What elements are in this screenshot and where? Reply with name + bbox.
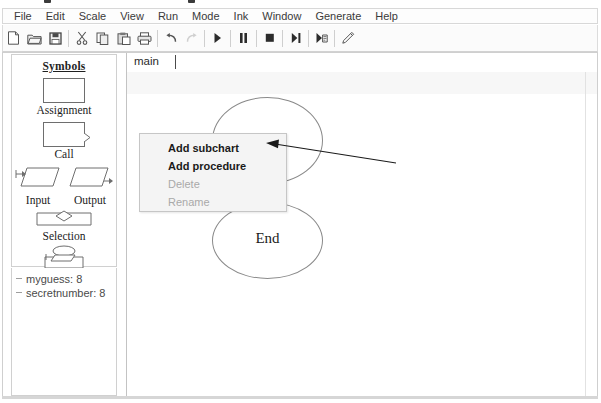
open-folder-icon[interactable] xyxy=(25,29,44,48)
toolbar-separator-6 xyxy=(282,30,283,47)
tab-strip: main xyxy=(127,53,597,73)
menu-item-window[interactable]: Window xyxy=(255,9,308,23)
context-menu-item-delete: Delete xyxy=(140,175,286,193)
menu-item-file[interactable]: File xyxy=(7,9,39,23)
menu-bar: File Edit Scale View Run Mode Ink Window… xyxy=(2,8,598,24)
symbol-label-call: Call xyxy=(12,148,116,160)
flowchart-canvas[interactable]: End xyxy=(127,72,597,397)
symbol-shape-call-wrap xyxy=(12,122,116,147)
step-into-icon[interactable] xyxy=(312,29,331,48)
new-file-icon[interactable] xyxy=(4,29,23,48)
toolbar-separator-3 xyxy=(204,30,205,47)
left-pane: Symbols Assignment Call xyxy=(3,53,127,397)
save-floppy-icon[interactable] xyxy=(46,29,65,48)
window-bottom-edge xyxy=(2,396,598,399)
toolbar-separator-1 xyxy=(68,30,69,47)
context-menu-item-add-subchart[interactable]: Add subchart xyxy=(140,139,286,157)
step-over-icon[interactable] xyxy=(286,29,305,48)
title-artifact-dot-left xyxy=(44,0,51,3)
symbol-label-assignment: Assignment xyxy=(12,104,116,116)
canvas-right-border xyxy=(585,72,586,397)
symbol-label-input: Input xyxy=(12,194,64,206)
symbol-label-selection: Selection xyxy=(12,230,116,242)
main-frame: Symbols Assignment Call xyxy=(2,52,598,398)
menu-item-ink[interactable]: Ink xyxy=(227,9,256,23)
menu-item-edit[interactable]: Edit xyxy=(39,9,72,23)
copy-icon[interactable] xyxy=(93,29,112,48)
tab-main[interactable]: main xyxy=(130,54,166,69)
paste-icon[interactable] xyxy=(114,29,133,48)
menu-item-generate[interactable]: Generate xyxy=(308,9,368,23)
symbols-palette: Symbols Assignment Call xyxy=(11,54,117,267)
toolbar-separator-8 xyxy=(334,30,335,47)
toolbar-separator-7 xyxy=(308,30,309,47)
flow-node-end-ellipse[interactable]: End xyxy=(212,202,323,279)
symbol-shape-assignment[interactable] xyxy=(43,78,85,103)
toolbar-separator-5 xyxy=(256,30,257,47)
symbol-shape-call[interactable] xyxy=(43,122,85,147)
variable-row-secretnumber[interactable]: secretnumber: 8 xyxy=(14,286,116,300)
workspace-pane: main End xyxy=(127,53,597,397)
print-icon[interactable] xyxy=(135,29,154,48)
symbol-cell-input xyxy=(12,160,64,193)
symbol-shape-input[interactable] xyxy=(14,165,62,191)
call-connector-icon xyxy=(83,132,93,144)
menu-item-view[interactable]: View xyxy=(113,9,151,23)
symbol-cell-output xyxy=(64,160,116,193)
context-menu-item-rename: Rename xyxy=(140,193,286,211)
variable-row-myguess[interactable]: myguess: 8 xyxy=(14,272,116,286)
symbol-label-output: Output xyxy=(64,194,116,206)
symbol-row-io xyxy=(12,160,116,193)
stop-icon[interactable] xyxy=(260,29,279,48)
toolbar-separator-4 xyxy=(230,30,231,47)
redo-icon xyxy=(182,29,201,48)
canvas-top-shade xyxy=(127,72,597,94)
flowgorithm-window: File Edit Scale View Run Mode Ink Window… xyxy=(0,0,601,403)
pause-icon[interactable] xyxy=(234,29,253,48)
menu-item-help[interactable]: Help xyxy=(368,9,405,23)
toolbar: 150% ▾ xyxy=(2,25,598,52)
flow-node-end-label: End xyxy=(213,230,322,247)
symbol-shape-selection[interactable] xyxy=(33,209,95,229)
run-play-icon[interactable] xyxy=(208,29,227,48)
pencil-icon[interactable] xyxy=(338,29,357,48)
undo-icon[interactable] xyxy=(161,29,180,48)
symbols-palette-title: Symbols xyxy=(12,60,116,72)
toolbar-separator-2 xyxy=(157,30,158,47)
context-menu-item-add-procedure[interactable]: Add procedure xyxy=(140,157,286,175)
context-menu[interactable]: Add subchart Add procedure Delete Rename xyxy=(139,133,287,212)
title-artifact-dot-right xyxy=(188,0,195,3)
variables-watch-panel: myguess: 8 secretnumber: 8 xyxy=(11,268,117,396)
title-bar-strip xyxy=(0,0,601,8)
menu-item-run[interactable]: Run xyxy=(151,9,185,23)
menu-item-scale[interactable]: Scale xyxy=(72,9,114,23)
menu-item-mode[interactable]: Mode xyxy=(185,9,227,23)
symbol-shape-output[interactable] xyxy=(66,165,114,191)
tab-caret xyxy=(175,55,176,69)
symbol-caption-row-io: Input Output xyxy=(12,193,116,206)
cut-scissors-icon[interactable] xyxy=(72,29,91,48)
